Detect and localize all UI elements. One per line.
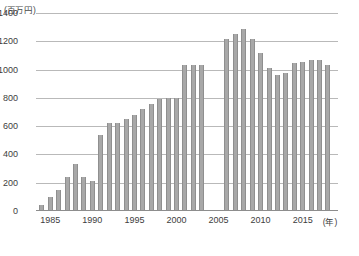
x-axis-tick-label: 1995	[124, 215, 144, 225]
y-axis-tick-text: 600	[0, 121, 18, 131]
y-axis-tick-label: 1400	[0, 8, 18, 18]
y-axis-tick-label: 0	[0, 206, 18, 216]
x-axis-tick-label: 2010	[251, 215, 271, 225]
plot-area	[36, 13, 338, 211]
bar	[166, 98, 171, 211]
bar	[267, 68, 272, 211]
bar	[283, 73, 288, 211]
bar	[115, 123, 120, 211]
bar	[149, 104, 154, 211]
bar	[90, 181, 95, 211]
x-axis-tick-label: 2000	[166, 215, 186, 225]
y-axis-tick-label: 400	[0, 149, 18, 159]
bar	[182, 65, 187, 211]
bar	[81, 177, 86, 211]
y-axis-tick-text: 1400	[0, 8, 18, 18]
bar	[132, 115, 137, 211]
x-axis-line	[36, 210, 338, 211]
bar	[317, 60, 322, 211]
bar	[65, 177, 70, 211]
y-axis-tick-text: 200	[0, 178, 18, 188]
bar	[275, 75, 280, 211]
y-axis-tick-label: 800	[0, 93, 18, 103]
bar	[309, 60, 314, 211]
bar	[241, 29, 246, 211]
x-axis-tick-label: 1985	[40, 215, 60, 225]
x-axis-tick-label: 2005	[209, 215, 229, 225]
bar	[107, 123, 112, 211]
y-axis-tick-label: 600	[0, 121, 18, 131]
bar	[140, 109, 145, 211]
y-axis-tick-text: 0	[0, 206, 18, 216]
bar-group	[36, 13, 338, 211]
y-axis-tick-text: 1200	[0, 36, 18, 46]
bar	[73, 164, 78, 211]
bar	[98, 135, 103, 211]
bar	[258, 53, 263, 211]
chart-caption	[0, 240, 359, 256]
x-axis-unit-label: (年)	[323, 215, 338, 227]
y-axis-tick-label: 1000	[0, 65, 18, 75]
bar	[124, 119, 129, 211]
y-axis-tick-label: 200	[0, 178, 18, 188]
bar	[224, 39, 229, 211]
y-axis-tick-text: 1000	[0, 65, 18, 75]
y-axis-tick-label: 1200	[0, 36, 18, 46]
bar	[56, 190, 61, 211]
bar	[48, 197, 53, 211]
bar-chart: (百万円) 0200400600800100012001400 19851990…	[0, 0, 359, 256]
y-axis-tick-text: 800	[0, 93, 18, 103]
bar	[233, 34, 238, 211]
y-axis-tick-text: 400	[0, 149, 18, 159]
bar	[300, 62, 305, 211]
bar	[325, 65, 330, 211]
x-axis-tick-label: 2015	[293, 215, 313, 225]
bar	[157, 99, 162, 211]
bar	[191, 65, 196, 211]
bar	[250, 39, 255, 211]
bar	[292, 63, 297, 211]
x-axis-tick-label: 1990	[82, 215, 102, 225]
bar	[174, 98, 179, 211]
bar	[199, 65, 204, 211]
